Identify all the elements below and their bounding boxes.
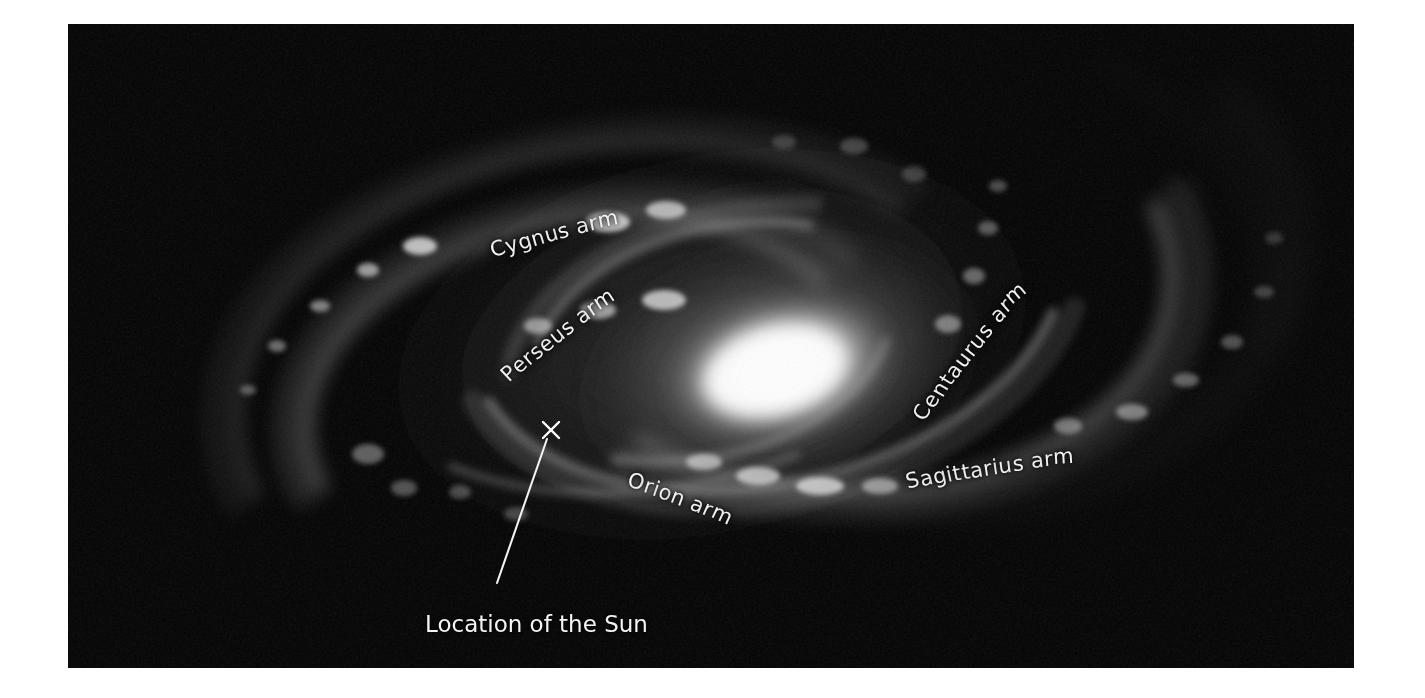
galaxy-image <box>68 24 1354 668</box>
galaxy-figure: Cygnus arm Perseus arm Centaurus arm Sag… <box>68 24 1354 668</box>
sun-location-caption: Location of the Sun <box>425 611 648 637</box>
noise-stars <box>68 24 1354 668</box>
page-root: Cygnus arm Perseus arm Centaurus arm Sag… <box>0 0 1425 698</box>
